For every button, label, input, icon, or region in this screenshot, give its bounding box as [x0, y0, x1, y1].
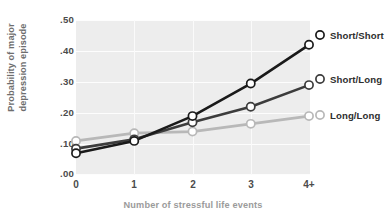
data-point — [247, 120, 255, 128]
data-point — [188, 112, 196, 120]
legend-marker — [316, 31, 324, 39]
legend-item-short-long: Short/Long — [330, 74, 382, 85]
x-axis-label: Number of stressful life events — [76, 200, 310, 210]
legend-marker — [316, 111, 324, 119]
legend-item-long-long: Long/Long — [330, 110, 380, 121]
data-point — [247, 103, 255, 111]
data-point — [247, 79, 255, 87]
chart-figure: Probability of major depression episode … — [0, 0, 390, 220]
data-point — [305, 112, 313, 120]
data-point — [188, 128, 196, 136]
data-point — [305, 81, 313, 89]
legend-marker — [316, 75, 324, 83]
data-point — [130, 137, 138, 145]
data-point — [305, 41, 313, 49]
data-point — [72, 149, 80, 157]
legend-item-short-short: Short/Short — [330, 30, 384, 41]
